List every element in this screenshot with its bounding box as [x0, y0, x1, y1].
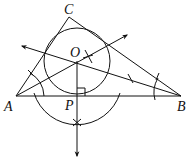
tick-mark-o: [83, 50, 93, 63]
tick-mark-bisector-b: [128, 74, 133, 83]
right-angle-mark: [77, 88, 85, 96]
label-b: B: [177, 99, 186, 114]
label-c: C: [64, 2, 74, 17]
label-a: A: [3, 99, 13, 114]
geometry-diagram: C O A P B: [0, 0, 188, 166]
label-o: O: [70, 45, 80, 60]
label-p: P: [64, 98, 74, 113]
